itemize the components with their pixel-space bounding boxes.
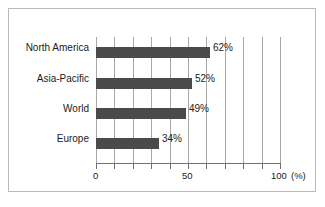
category-label-text: North America bbox=[26, 42, 89, 53]
x-tick bbox=[170, 164, 171, 169]
x-tick bbox=[280, 164, 281, 169]
value-label-north-america: 62% bbox=[213, 42, 233, 53]
x-tick-label-0: 0 bbox=[93, 170, 98, 181]
x-tick bbox=[96, 164, 97, 169]
category-label-text: World bbox=[63, 103, 89, 114]
gridline bbox=[225, 37, 226, 163]
category-label-europe: Europe bbox=[0, 133, 89, 144]
x-tick bbox=[151, 164, 152, 169]
x-tick-label-100: 100 bbox=[271, 170, 287, 181]
x-tick bbox=[243, 164, 244, 169]
plot-area bbox=[96, 37, 280, 163]
x-tick-label-50: 50 bbox=[182, 170, 193, 181]
category-label-north-america: North America bbox=[0, 42, 89, 53]
gridline bbox=[262, 37, 263, 163]
gridline bbox=[243, 37, 244, 163]
x-tick bbox=[133, 164, 134, 169]
bar-asia-pacific bbox=[96, 78, 192, 89]
x-tick bbox=[188, 164, 189, 169]
value-label-europe: 34% bbox=[162, 133, 182, 144]
category-label-text: Asia-Pacific bbox=[37, 73, 89, 84]
value-label-asia-pacific: 52% bbox=[195, 73, 215, 84]
x-tick bbox=[114, 164, 115, 169]
category-label-asia-pacific: Asia-Pacific bbox=[0, 73, 89, 84]
chart-figure: North America Asia-Pacific World Europe … bbox=[0, 0, 325, 207]
gridline bbox=[280, 37, 281, 163]
x-tick bbox=[206, 164, 207, 169]
bar-europe bbox=[96, 138, 159, 149]
x-axis-unit-label: (%) bbox=[291, 170, 306, 181]
value-label-world: 49% bbox=[189, 103, 209, 114]
x-tick bbox=[262, 164, 263, 169]
x-tick bbox=[225, 164, 226, 169]
bar-world bbox=[96, 108, 186, 119]
category-label-text: Europe bbox=[57, 133, 89, 144]
bar-north-america bbox=[96, 47, 210, 58]
category-label-world: World bbox=[0, 103, 89, 114]
